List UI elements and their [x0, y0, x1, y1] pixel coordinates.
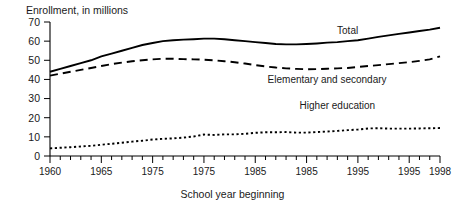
- x-tick-label: 1985: [295, 166, 318, 177]
- y-axis: 706050403020100: [28, 16, 50, 162]
- series-annotation-elementary-and-secondary: Elementary and secondary: [268, 74, 387, 85]
- x-tick-label: 1965: [90, 166, 113, 177]
- series-annotation-higher-education: Higher education: [300, 100, 376, 111]
- x-tick-label: 1975: [142, 166, 165, 177]
- y-tick-label: 10: [28, 131, 40, 143]
- data-series-group: [50, 28, 440, 149]
- enrollment-line-chart: Enrollment, in millions 706050403020100 …: [0, 0, 465, 209]
- x-tick-label: 1998: [429, 166, 452, 177]
- y-tick-label: 60: [28, 35, 40, 47]
- series-line-higher-education: [50, 128, 440, 148]
- series-annotation-total: Total: [337, 25, 358, 36]
- x-tick-label: 1985: [244, 166, 267, 177]
- x-tick-label: 1995: [347, 166, 370, 177]
- x-tick-label: 1960: [39, 166, 62, 177]
- y-tick-label: 50: [28, 54, 40, 66]
- y-tick-label: 20: [28, 112, 40, 124]
- y-tick-label: 40: [28, 73, 40, 85]
- series-line-elementary-and-secondary: [50, 56, 440, 75]
- x-axis-title: School year beginning: [0, 188, 465, 200]
- y-tick-label: 30: [28, 92, 40, 104]
- x-tick-label: 1975: [193, 166, 216, 177]
- y-tick-label: 0: [34, 150, 40, 162]
- plot-area: 706050403020100 196019651975197519851985…: [0, 0, 465, 209]
- x-tick-label: 1995: [398, 166, 421, 177]
- y-tick-label: 70: [28, 16, 40, 28]
- x-axis: 196019651975197519851985199519951998: [39, 156, 452, 177]
